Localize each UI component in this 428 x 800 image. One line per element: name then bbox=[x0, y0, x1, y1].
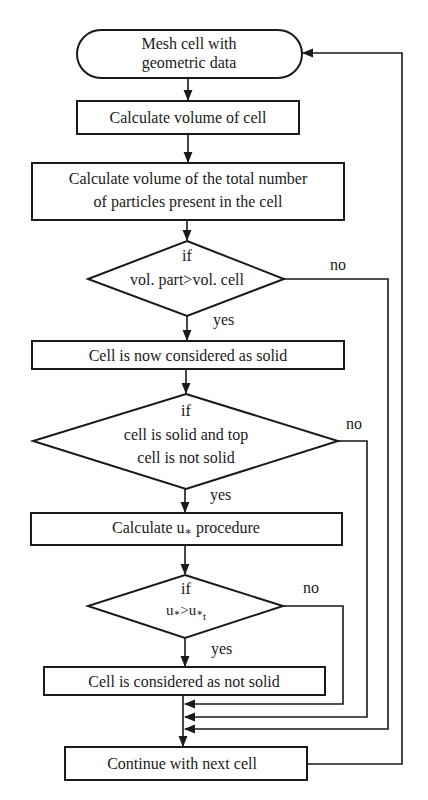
decision-ustar-op: > bbox=[180, 602, 188, 618]
node-calc-particle-volume: Calculate volume of the total number of … bbox=[32, 163, 344, 220]
decision-top-line-1: cell is solid and top bbox=[124, 426, 248, 444]
continue-label: Continue with next cell bbox=[107, 755, 257, 772]
decision-ustar-lhs-star: ∗ bbox=[173, 607, 180, 618]
node-cell-solid: Cell is now considered as solid bbox=[32, 341, 344, 369]
calc-ustar-suffix: procedure bbox=[192, 519, 260, 537]
cell-solid-label: Cell is now considered as solid bbox=[89, 347, 288, 364]
decision-top-line-2: cell is not solid bbox=[137, 449, 234, 466]
start-label-line-2: geometric data bbox=[142, 54, 237, 72]
node-cell-not-solid: Cell is considered as not solid bbox=[44, 667, 325, 695]
decision-top-no-label: no bbox=[346, 415, 362, 432]
decision-volume-no-label: no bbox=[330, 256, 346, 273]
flowchart: Mesh cell with geometric data Calculate … bbox=[0, 0, 428, 800]
node-decision-top: if cell is solid and top cell is not sol… bbox=[33, 394, 338, 489]
edge-continue-loop-back bbox=[303, 53, 402, 764]
decision-ustar-yes-label: yes bbox=[211, 640, 232, 658]
calc-particle-volume-line-1: Calculate volume of the total number bbox=[69, 170, 308, 187]
decision-volume-condition: vol. part>vol. cell bbox=[130, 271, 244, 289]
node-continue: Continue with next cell bbox=[65, 747, 307, 780]
node-decision-volume: if vol. part>vol. cell bbox=[88, 241, 284, 316]
calc-particle-volume-line-2: of particles present in the cell bbox=[94, 193, 283, 211]
start-label-line-1: Mesh cell with bbox=[141, 35, 236, 52]
calc-cell-volume-label: Calculate volume of cell bbox=[110, 109, 267, 126]
decision-ustar-no-label: no bbox=[303, 579, 319, 596]
node-calc-cell-volume: Calculate volume of cell bbox=[77, 101, 299, 134]
decision-volume-if: if bbox=[182, 247, 192, 264]
decision-top-yes-label: yes bbox=[210, 486, 231, 504]
node-calc-ustar: Calculate u∗ procedure bbox=[31, 513, 342, 545]
decision-ustar-rhs-star: ∗ bbox=[196, 607, 203, 618]
decision-ustar-rhs-sub: t bbox=[203, 610, 206, 622]
decision-volume-yes-label: yes bbox=[213, 311, 234, 329]
decision-top-if: if bbox=[181, 402, 191, 419]
calc-ustar-star: ∗ bbox=[184, 525, 191, 537]
cell-not-solid-label: Cell is considered as not solid bbox=[88, 673, 280, 690]
calc-ustar-prefix: Calculate u bbox=[112, 519, 184, 536]
node-decision-ustar: if u∗>u∗t bbox=[88, 575, 283, 638]
decision-ustar-if: if bbox=[181, 580, 191, 597]
node-start-terminator: Mesh cell with geometric data bbox=[77, 30, 302, 78]
